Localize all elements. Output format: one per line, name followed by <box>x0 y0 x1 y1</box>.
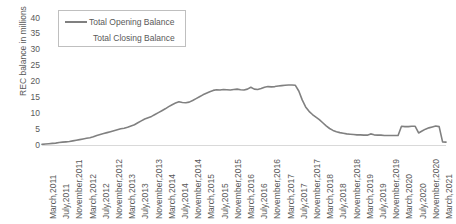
x-axis-tick: July,2015 <box>221 183 230 219</box>
x-axis-tick: March,2016 <box>247 174 256 219</box>
x-axis-line <box>42 145 446 146</box>
x-axis-tick: March,2021 <box>445 174 454 219</box>
y-axis-tick: 0 <box>20 141 40 150</box>
x-axis-tick: November,2017 <box>313 159 322 219</box>
x-axis-tick: November,2011 <box>75 160 84 219</box>
x-axis-tick: July,2018 <box>339 183 348 219</box>
x-axis-tick: November,2015 <box>234 159 243 219</box>
y-axis-tick: 20 <box>20 77 40 86</box>
legend-empty-icon <box>65 33 87 43</box>
x-axis-tick: November,2013 <box>155 159 164 219</box>
x-axis-tick: November,2020 <box>432 159 441 219</box>
x-axis-tick-labels: March,2011July,2011November,2011March,20… <box>42 147 446 224</box>
y-axis-tick: 15 <box>20 93 40 102</box>
chart-legend: Total Opening Balance Total Closing Bala… <box>58 10 186 47</box>
x-axis-tick: July,2012 <box>102 183 111 219</box>
x-axis-tick: March,2013 <box>128 174 137 219</box>
legend-item-total-closing-balance[interactable]: Total Closing Balance <box>59 30 187 45</box>
x-axis-tick: November,2014 <box>194 159 203 219</box>
x-axis-tick: March,2020 <box>405 174 414 219</box>
y-axis-tick: 40 <box>20 14 40 23</box>
x-axis-tick: July,2014 <box>181 183 190 219</box>
x-axis-tick: November,2019 <box>392 159 401 219</box>
y-axis-tick: 10 <box>20 109 40 118</box>
x-axis-tick: November,2018 <box>353 159 362 219</box>
x-axis-tick: July,2017 <box>300 183 309 219</box>
y-axis-tick: 25 <box>20 61 40 70</box>
series-line-total-opening-balance <box>42 85 446 144</box>
x-axis-tick: July,2011 <box>62 184 71 219</box>
x-axis-tick: July,2020 <box>419 183 428 219</box>
x-axis-tick: July,2013 <box>141 183 150 219</box>
x-axis-tick: November,2012 <box>115 159 124 219</box>
y-axis-tick: 35 <box>20 29 40 38</box>
x-axis-tick: March,2014 <box>168 174 177 219</box>
x-axis-tick: March,2015 <box>207 174 216 219</box>
x-axis-tick: March,2018 <box>326 174 335 219</box>
x-axis-tick: July,2019 <box>379 183 388 219</box>
legend-label: Total Closing Balance <box>93 33 175 43</box>
x-axis-tick: March,2017 <box>287 174 296 219</box>
y-axis-tick: 30 <box>20 45 40 54</box>
rec-balance-line-chart: REC balance in millions 4035302520151050… <box>0 0 456 224</box>
legend-item-total-opening-balance[interactable]: Total Opening Balance <box>59 14 187 29</box>
x-axis-tick: March,2019 <box>366 174 375 219</box>
y-axis-tick: 5 <box>20 125 40 134</box>
x-axis-tick: March,2012 <box>89 174 98 219</box>
x-axis-tick: July,2016 <box>260 183 269 219</box>
x-axis-tick: November,2016 <box>273 159 282 219</box>
legend-label: Total Opening Balance <box>89 17 175 27</box>
y-axis-tick-labels: 4035302520151050 <box>20 12 40 148</box>
legend-line-icon <box>65 17 87 27</box>
x-axis-tick: March,2011 <box>49 175 58 219</box>
